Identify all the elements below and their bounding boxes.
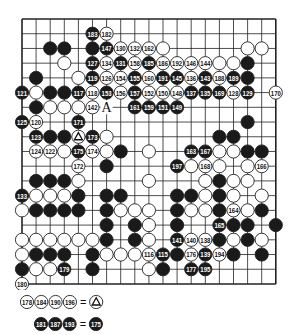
move-number: 182 [102, 30, 112, 39]
stone [213, 204, 226, 217]
stone-move-137: 137 [185, 86, 198, 99]
white-stone-icon [72, 71, 85, 84]
white-stone-icon [255, 42, 268, 55]
black-stone-icon [100, 160, 113, 173]
stone [100, 248, 113, 261]
stone [241, 174, 254, 187]
move-number: 166 [257, 162, 267, 171]
black-stone-icon [114, 189, 127, 202]
black-stone-icon [227, 218, 240, 231]
stone-move-150: 150 [156, 86, 169, 99]
stone-move-140: 140 [185, 233, 198, 246]
stone [58, 42, 71, 55]
move-number: 150 [158, 89, 168, 98]
stone [86, 248, 99, 261]
move-number: 144 [200, 59, 211, 68]
stone-move-129: 129 [241, 86, 254, 99]
stone [241, 71, 254, 84]
move-number: 184 [36, 298, 47, 307]
stone [199, 189, 212, 202]
white-stone-icon [100, 145, 113, 158]
move-number: 169 [214, 89, 224, 98]
stone [213, 57, 226, 70]
legend-stone-178: 178 [20, 295, 33, 308]
stone-move-165: 165 [213, 218, 226, 231]
stone-move-130: 130 [114, 42, 127, 55]
white-stone-icon [72, 233, 85, 246]
black-stone-icon [255, 248, 268, 261]
white-stone-icon [185, 204, 198, 217]
move-number: 187 [50, 320, 60, 329]
stone-move-172: 172 [72, 160, 85, 173]
move-number: 121 [17, 89, 28, 98]
stone-move-116: 116 [142, 248, 155, 261]
white-stone-icon [185, 160, 198, 173]
stone [199, 174, 212, 187]
black-stone-icon [44, 86, 57, 99]
white-stone-icon [213, 160, 226, 173]
stone [58, 57, 71, 70]
white-stone-icon [15, 233, 28, 246]
move-number: 178 [22, 298, 32, 307]
black-stone-icon [241, 57, 254, 70]
black-stone-icon [213, 233, 226, 246]
move-number: 188 [214, 74, 224, 83]
stone [44, 189, 57, 202]
move-number: 155 [130, 74, 141, 83]
move-number: 141 [172, 236, 183, 245]
stone-move-156: 156 [114, 86, 127, 99]
move-number: 123 [31, 133, 41, 142]
move-number: 125 [17, 118, 28, 127]
stone-move-158: 158 [128, 57, 141, 70]
stone-move-119: 119 [86, 71, 99, 84]
white-stone-icon [142, 204, 155, 217]
stone-move-118: 118 [86, 86, 99, 99]
stone-move-171: 171 [72, 115, 85, 128]
stone [58, 86, 71, 99]
move-number: 140 [186, 236, 196, 245]
stone [114, 189, 127, 202]
stone-move-135: 135 [199, 86, 212, 99]
black-stone-icon [213, 130, 226, 143]
stone [227, 130, 240, 143]
stone-move-194: 194 [213, 248, 226, 261]
move-legend: 178184190196=181187193=175 [0, 290, 294, 335]
stone-move-192: 192 [171, 57, 184, 70]
stone-move-141: 141 [171, 233, 184, 246]
board-marks: A [101, 100, 113, 115]
move-number: 196 [65, 298, 75, 307]
white-stone-icon [241, 174, 254, 187]
white-stone-icon [142, 263, 155, 276]
stone-move-161: 161 [128, 101, 141, 114]
white-stone-icon [15, 248, 28, 261]
black-stone-icon [156, 263, 169, 276]
move-number: 122 [45, 147, 55, 156]
stone [58, 204, 71, 217]
move-number: 180 [17, 280, 27, 289]
white-stone-icon [255, 233, 268, 246]
stone [29, 174, 42, 187]
stone [44, 263, 57, 276]
stone [227, 248, 240, 261]
black-stone-icon [213, 189, 226, 202]
stone-move-197: 197 [171, 160, 184, 173]
stone [255, 248, 268, 261]
stone [156, 42, 169, 55]
stone-move-177: 177 [185, 263, 198, 276]
legend-stone-175: 175 [89, 317, 102, 330]
stone-move-188: 188 [213, 71, 226, 84]
move-number: 191 [158, 74, 169, 83]
stone-move-166: 166 [255, 160, 268, 173]
black-stone-icon [241, 218, 254, 231]
stone-move-180: 180 [15, 277, 28, 290]
move-number: 165 [214, 221, 225, 230]
stone-move-123: 123 [29, 130, 42, 143]
white-stone-icon [142, 174, 155, 187]
stone-move-189: 189 [227, 71, 240, 84]
move-number: 130 [116, 44, 126, 53]
black-stone-icon [44, 42, 57, 55]
white-stone-icon [227, 174, 240, 187]
stone [100, 160, 113, 173]
stone [255, 42, 268, 55]
stone-move-164: 164 [227, 204, 240, 217]
